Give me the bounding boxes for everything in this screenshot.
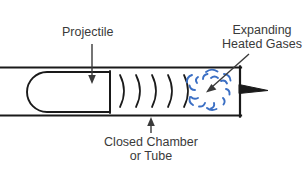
pressure-wave-arc-3: [152, 75, 156, 107]
gas-burst-stroke-6: [199, 103, 205, 107]
label-projectile: Projectile: [62, 26, 113, 40]
pressure-wave-arcs: [120, 75, 188, 107]
gas-burst-stroke-11: [206, 70, 218, 72]
pressure-wave-arc-4: [168, 75, 172, 107]
label-chamber-line-1: Closed Chamber: [86, 136, 216, 150]
gas-burst-stroke-10: [203, 74, 208, 79]
gas-burst-stroke-4: [223, 98, 225, 105]
pressure-wave-arc-1: [120, 75, 124, 107]
primer-nozzle-group: [239, 85, 268, 94]
label-projectile-line-1: Projectile: [62, 26, 113, 40]
leader-lines-group: [88, 44, 249, 133]
gas-burst-stroke-3: [226, 89, 230, 95]
label-expanding-heated-gases: Expanding Heated Gases: [216, 24, 307, 51]
chamber-leader-arrowhead: [147, 117, 155, 126]
gas-burst-stroke-8: [190, 86, 196, 91]
label-closed-chamber-or-tube: Closed Chamber or Tube: [86, 136, 216, 163]
gas-burst-stroke-7: [191, 97, 198, 99]
gas-burst-stroke-1: [211, 77, 218, 79]
gas-burst-stroke-9: [196, 77, 198, 83]
label-gases-line-2: Heated Gases: [216, 38, 307, 52]
primer-wedge-icon: [239, 85, 268, 94]
diagram-canvas: Projectile Expanding Heated Gases Closed…: [0, 0, 307, 176]
projectile-body: [27, 72, 110, 112]
projectile-shape-group: [27, 71, 110, 113]
gas-burst-stroke-5: [211, 103, 214, 109]
gas-burst-stroke-13: [187, 75, 192, 83]
gas-burst-stroke-2: [221, 81, 227, 84]
label-gases-line-1: Expanding: [216, 24, 307, 38]
pressure-wave-arc-2: [136, 75, 140, 107]
label-chamber-line-2: or Tube: [86, 150, 216, 164]
